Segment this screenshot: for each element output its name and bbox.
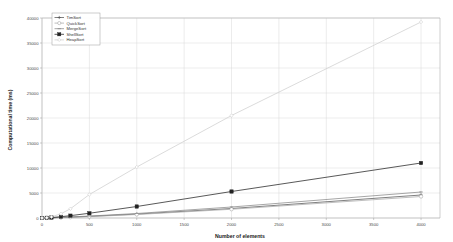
- data-point-marker: [58, 22, 61, 25]
- y-tick-label: 30000: [27, 66, 39, 71]
- x-tick-label: 3000: [322, 222, 332, 227]
- y-tick-label: 15000: [27, 141, 39, 146]
- legend-label-timsort: TimSort: [67, 15, 82, 20]
- x-tick-label: 500: [86, 222, 94, 227]
- data-point-marker: [419, 161, 422, 164]
- data-point-marker: [88, 215, 91, 218]
- data-point-marker: [419, 195, 422, 198]
- chart-figure: 0500010000150002000025000300003500040000…: [0, 0, 453, 242]
- legend-label-shellsort: ShellSort: [67, 32, 85, 37]
- line-chart: 0500010000150002000025000300003500040000…: [0, 0, 453, 242]
- legend-label-heapsort: HeapSort: [67, 37, 86, 42]
- y-tick-label: 25000: [27, 91, 39, 96]
- chart-legend: TimSortQuickSortMergeSortShellSortHeapSo…: [52, 13, 100, 45]
- data-point-marker: [88, 212, 91, 215]
- data-point-marker: [58, 33, 61, 36]
- x-tick-label: 3500: [369, 222, 379, 227]
- legend-label-mergesort: MergeSort: [67, 26, 87, 31]
- data-point-marker: [69, 214, 72, 217]
- x-tick-label: 1500: [179, 222, 189, 227]
- data-point-marker: [135, 205, 138, 208]
- data-point-marker: [230, 208, 233, 211]
- y-tick-label: 10000: [27, 166, 39, 171]
- x-tick-label: 4000: [416, 222, 426, 227]
- data-point-marker: [230, 190, 233, 193]
- x-tick-label: 2000: [227, 222, 237, 227]
- x-axis-title: Number of elements: [215, 233, 265, 239]
- y-axis-title: Computational time (ms): [7, 89, 13, 150]
- y-tick-label: 40000: [27, 16, 39, 21]
- y-tick-label: 35000: [27, 41, 39, 46]
- legend-label-quicksort: QuickSort: [67, 21, 86, 26]
- y-tick-label: 20000: [27, 116, 39, 121]
- x-tick-label: 2500: [274, 222, 284, 227]
- y-tick-label: 5000: [29, 191, 39, 196]
- x-tick-label: 1000: [132, 222, 142, 227]
